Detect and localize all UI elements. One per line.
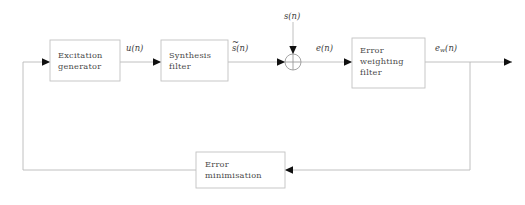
- diagram-canvas: [0, 0, 525, 205]
- block-excitation-generator: [50, 40, 120, 81]
- block-synthesis-filter: [161, 40, 228, 81]
- wire-minimisation-feedback: [23, 62, 196, 170]
- block-diagram: Excitation generator Synthesis filter Er…: [0, 0, 525, 205]
- block-error-minimisation: [196, 152, 285, 188]
- block-error-weighting-filter: [352, 38, 425, 88]
